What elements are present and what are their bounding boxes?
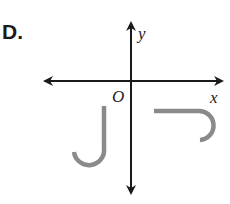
j-shape-left [74, 106, 104, 165]
j-shape-right [154, 111, 214, 140]
coordinate-plane: y x O [0, 0, 230, 204]
x-axis-label: x [209, 88, 218, 107]
y-axis-label: y [136, 24, 146, 43]
origin-label: O [112, 87, 124, 106]
